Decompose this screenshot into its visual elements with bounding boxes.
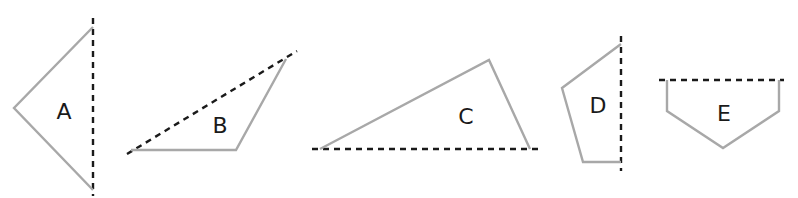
shape-c: C xyxy=(312,60,540,149)
shape-a: A xyxy=(14,18,93,196)
symmetry-figure: A B C D E xyxy=(0,0,798,198)
shape-a-label: A xyxy=(56,99,71,124)
shape-e-label: E xyxy=(717,101,731,126)
shape-b: B xyxy=(127,51,297,154)
shape-c-outline xyxy=(320,60,530,149)
shape-d: D xyxy=(562,36,621,171)
shape-c-label: C xyxy=(458,104,473,129)
shape-b-label: B xyxy=(212,113,227,138)
shape-d-label: D xyxy=(590,93,607,118)
shape-e: E xyxy=(659,80,784,148)
shape-a-outline xyxy=(14,27,93,190)
shape-b-mirror-line xyxy=(127,51,297,154)
